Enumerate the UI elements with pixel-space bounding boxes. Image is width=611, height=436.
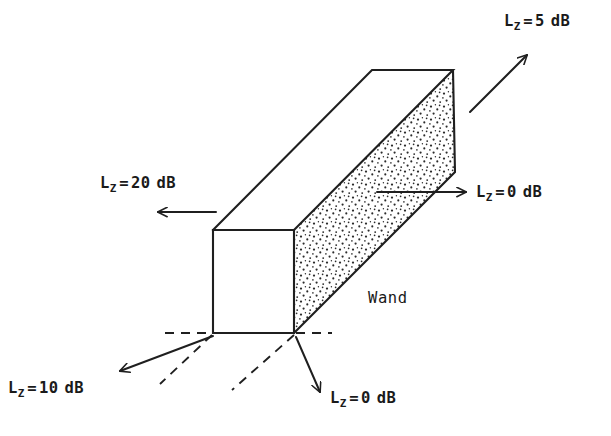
depth-dash-front-right bbox=[232, 335, 294, 390]
label-value: 20 bbox=[131, 174, 150, 192]
label-unit: dB bbox=[59, 379, 84, 397]
label-equals: = bbox=[521, 12, 535, 30]
label-unit: dB bbox=[371, 389, 396, 407]
label-lz-top-right: LZ=5dB bbox=[504, 14, 570, 32]
label-equals: = bbox=[25, 379, 39, 397]
label-wand: Wand bbox=[368, 291, 408, 307]
depth-dash-front-left bbox=[160, 335, 212, 384]
diagram-canvas: LZ=5dB LZ=20dB LZ=0dB LZ=10dB LZ=0dB Wan… bbox=[0, 0, 611, 436]
label-value: 0 bbox=[361, 389, 371, 407]
label-unit: dB bbox=[517, 183, 542, 201]
label-lz-bottom-left: LZ=10dB bbox=[8, 381, 84, 399]
arrow-down bbox=[296, 337, 320, 392]
label-symbol: L bbox=[476, 183, 486, 201]
arrow-down-left bbox=[120, 336, 213, 371]
label-symbol: L bbox=[504, 12, 514, 30]
label-equals: = bbox=[347, 389, 361, 407]
label-symbol: L bbox=[330, 389, 340, 407]
label-unit: dB bbox=[151, 174, 176, 192]
wall-front-face bbox=[213, 230, 294, 333]
label-value: 10 bbox=[39, 379, 58, 397]
wall-box-drawing bbox=[0, 0, 611, 436]
label-value: 5 bbox=[535, 12, 545, 30]
label-symbol: L bbox=[100, 174, 110, 192]
label-symbol: L bbox=[8, 379, 18, 397]
label-lz-left: LZ=20dB bbox=[100, 176, 176, 194]
label-equals: = bbox=[493, 183, 507, 201]
label-lz-bottom-middle: LZ=0dB bbox=[330, 391, 396, 409]
label-unit: dB bbox=[545, 12, 570, 30]
arrow-up-right bbox=[470, 55, 527, 112]
label-value: 0 bbox=[507, 183, 517, 201]
label-equals: = bbox=[117, 174, 131, 192]
label-lz-right: LZ=0dB bbox=[476, 185, 542, 203]
